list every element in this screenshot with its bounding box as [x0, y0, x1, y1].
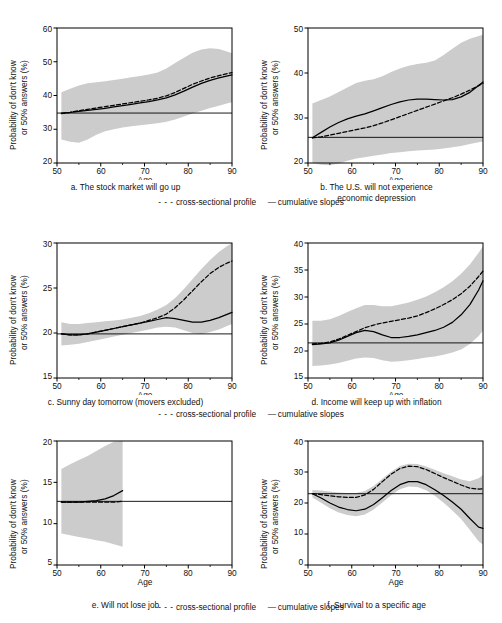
panel-c-ylabel-group: Probability of don't know or 50% answers… — [8, 274, 29, 365]
panel-d-plot: Probability of don't know or 50% answers… — [251, 215, 502, 395]
panel-a-svg: Probability of don't know or 50% answers… — [0, 0, 251, 180]
y-tick-25: 25 — [43, 283, 53, 293]
x-tick-80: 80 — [183, 381, 193, 391]
y-tick-35: 35 — [294, 265, 304, 275]
y-axis-label-line1: Probability of don't know — [259, 478, 269, 569]
confidence-band — [61, 48, 232, 143]
confidence-band — [61, 243, 232, 346]
legend-row-3: - - - cross-sectional profile — cumulati… — [0, 601, 502, 612]
panel-e-svg: Probability of don't know or 50% answers… — [0, 424, 251, 594]
panel-b-plotarea — [305, 28, 484, 167]
panel-f-ylabel-group: Probability of don't know or 50% answers… — [259, 478, 280, 569]
x-tick-50: 50 — [52, 568, 62, 578]
legend-solid-glyph: — — [268, 409, 276, 419]
y-tick-5: 5 — [47, 557, 52, 567]
x-tick-80: 80 — [434, 381, 444, 391]
y-tick-20: 20 — [294, 345, 304, 355]
panel-c-yticks: 30 25 20 15 — [43, 239, 53, 381]
panel-b-yticks: 50 40 30 20 — [294, 24, 304, 166]
y-tick-15: 15 — [43, 477, 53, 487]
x-tick-90: 90 — [478, 568, 488, 578]
y-axis-label-line1: Probability of don't know — [8, 274, 18, 365]
panel-d-caption: d. Income will keep up with inflation — [251, 397, 502, 408]
legend-dashed-glyph: - - - — [158, 409, 173, 419]
panel-d-yticks: 40 35 30 25 20 15 — [294, 239, 304, 381]
panel-e: Probability of don't know or 50% answers… — [0, 424, 251, 611]
x-tick-60: 60 — [347, 166, 357, 176]
x-axis-label: Age — [138, 175, 153, 180]
panel-a-caption: a. The stock market will go up — [0, 182, 251, 193]
y-tick-20: 20 — [294, 156, 304, 166]
panel-e-ylabel-group: Probability of don't know or 50% answers… — [8, 478, 29, 569]
legend-solid-label: cumulative slopes — [278, 197, 344, 207]
y-tick-15: 15 — [294, 371, 304, 381]
x-tick-90: 90 — [227, 381, 237, 391]
x-tick-60: 60 — [347, 568, 357, 578]
x-axis-label: Age — [138, 577, 153, 587]
confidence-band — [312, 35, 483, 166]
y-axis-label-line2: or 50% answers (%) — [270, 60, 280, 135]
x-tick-50: 50 — [303, 166, 313, 176]
panel-c-svg: Probability of don't know or 50% answers… — [0, 215, 251, 395]
x-axis-label: Age — [389, 390, 404, 395]
x-tick-60: 60 — [347, 381, 357, 391]
y-tick-15: 15 — [43, 371, 53, 381]
legend-solid-glyph: — — [268, 602, 276, 612]
panel-f: Probability of don't know or 50% answers… — [251, 424, 502, 611]
x-tick-60: 60 — [96, 166, 106, 176]
y-tick-30: 30 — [294, 292, 304, 302]
x-tick-50: 50 — [303, 381, 313, 391]
panel-d-plotarea — [305, 243, 484, 382]
legend-dashed-glyph: - - - — [158, 197, 173, 207]
x-tick-50: 50 — [303, 568, 313, 578]
y-tick-10: 10 — [43, 517, 53, 527]
y-tick-30: 30 — [43, 239, 53, 249]
y-tick-20: 20 — [43, 327, 53, 337]
y-tick-30: 30 — [294, 467, 304, 477]
panel-a-yticks: 60 50 40 30 20 — [43, 24, 53, 166]
x-tick-90: 90 — [227, 166, 237, 176]
panel-f-plotarea — [305, 441, 484, 569]
panel-b: Probability of don't know or 50% answers… — [251, 0, 502, 203]
y-axis-label-line2: or 50% answers (%) — [19, 479, 29, 554]
legend-row-2: - - - cross-sectional profile — cumulati… — [0, 408, 502, 419]
x-tick-90: 90 — [478, 381, 488, 391]
panel-b-svg: Probability of don't know or 50% answers… — [251, 0, 502, 180]
confidence-band — [312, 464, 483, 545]
y-axis-label-line1: Probability of don't know — [8, 478, 18, 569]
panel-e-yticks: 20 15 10 5 — [43, 437, 53, 567]
y-tick-40: 40 — [294, 239, 304, 249]
confidence-band — [61, 441, 122, 547]
confidence-band — [312, 246, 483, 366]
x-tick-50: 50 — [52, 381, 62, 391]
y-tick-40: 40 — [294, 68, 304, 78]
x-axis-label: Age — [389, 175, 404, 180]
y-axis-label-line1: Probability of don't know — [259, 59, 269, 150]
y-tick-50: 50 — [43, 57, 53, 67]
legend-solid-glyph: — — [268, 197, 276, 207]
y-tick-20: 20 — [294, 497, 304, 507]
panel-b-caption-line1: b. The U.S. will not experience — [251, 182, 502, 193]
x-tick-90: 90 — [478, 166, 488, 176]
y-axis-label-line2: or 50% answers (%) — [270, 479, 280, 554]
x-tick-80: 80 — [183, 568, 193, 578]
panel-e-plot: Probability of don't know or 50% answers… — [0, 424, 251, 594]
y-axis-label-line1: Probability of don't know — [259, 274, 269, 365]
x-tick-80: 80 — [434, 568, 444, 578]
y-tick-50: 50 — [294, 24, 304, 34]
panel-c-plotarea — [54, 243, 233, 382]
panel-c: Probability of don't know or 50% answers… — [0, 215, 251, 408]
panel-c-caption: c. Sunny day tomorrow (movers excluded) — [0, 397, 251, 408]
panel-b-plot: Probability of don't know or 50% answers… — [251, 0, 502, 180]
y-tick-60: 60 — [43, 24, 53, 34]
panel-a-plot: Probability of don't know or 50% answers… — [0, 0, 251, 180]
y-axis-label-line1: Probability of don't know — [8, 59, 18, 150]
legend-dashed-label: cross-sectional profile — [176, 602, 256, 612]
y-tick-40: 40 — [294, 437, 304, 447]
panel-d: Probability of don't know or 50% answers… — [251, 215, 502, 408]
y-tick-0: 0 — [298, 557, 303, 567]
panel-a: Probability of don't know or 50% answers… — [0, 0, 251, 193]
panel-c-plot: Probability of don't know or 50% answers… — [0, 215, 251, 395]
x-tick-60: 60 — [96, 568, 106, 578]
legend-solid-label: cumulative slopes — [278, 602, 344, 612]
